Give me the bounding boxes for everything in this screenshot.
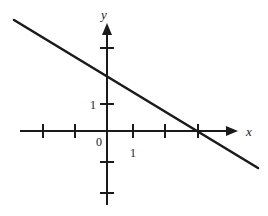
y-axis-label: y xyxy=(99,7,107,22)
x-axis-label: x xyxy=(245,124,252,139)
graph-figure: y x 0 1 1 xyxy=(0,0,268,216)
x-axis-arrow-icon xyxy=(226,126,238,136)
coordinate-plane-svg: y x 0 1 1 xyxy=(0,0,268,216)
plotted-line xyxy=(14,20,258,168)
y-axis-arrow-icon xyxy=(102,23,112,35)
y-tick-label-1: 1 xyxy=(90,98,96,112)
origin-label: 0 xyxy=(96,135,102,149)
x-tick-label-1: 1 xyxy=(130,146,136,160)
y-axis xyxy=(100,23,114,205)
